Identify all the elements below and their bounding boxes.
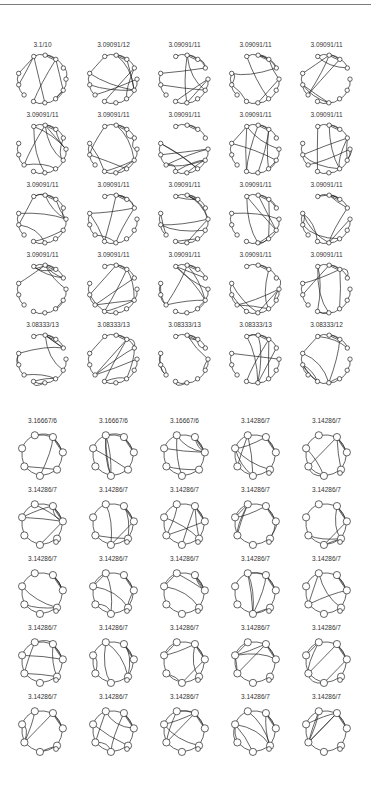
- graph-node: [266, 97, 270, 101]
- graph-node: [301, 293, 305, 297]
- graph-node: [125, 678, 130, 683]
- graph-node: [64, 357, 68, 361]
- graph-edge: [127, 348, 135, 379]
- graph-node: [266, 167, 270, 171]
- graph-node: [173, 309, 177, 313]
- graph-node: [316, 264, 320, 268]
- graph-panel: 3.14286/7: [220, 624, 291, 694]
- graph-node: [274, 368, 278, 372]
- graph-node: [195, 97, 199, 101]
- graph-panel: 3.14286/7: [149, 693, 220, 763]
- graph-panel: 3.09091/11: [220, 251, 291, 321]
- graph-node: [43, 333, 47, 337]
- graph-node: [178, 610, 185, 617]
- graph-node: [173, 501, 180, 508]
- graph-node: [234, 463, 241, 470]
- graph-node: [43, 53, 47, 57]
- graph-drawing: [78, 259, 149, 321]
- graph-edge: [19, 196, 34, 224]
- graph-panel: 3.09091/11: [149, 181, 220, 251]
- graph-node: [43, 311, 47, 315]
- graph-drawing: [220, 563, 291, 625]
- graph-node: [185, 241, 189, 245]
- graph-node: [173, 99, 177, 103]
- graph-node: [89, 721, 96, 728]
- graph-label: 3.09091/11: [78, 181, 149, 189]
- graph-node: [267, 337, 271, 341]
- graph-edge: [104, 642, 111, 683]
- graph-node: [302, 583, 309, 590]
- graph-node: [249, 610, 256, 617]
- graph-node: [114, 263, 118, 267]
- graph-node: [178, 679, 185, 686]
- graph-node: [316, 124, 320, 128]
- graph-node: [16, 71, 20, 75]
- graph-node: [348, 287, 352, 291]
- graph-node: [173, 639, 180, 646]
- graph-panel: 3.14286/7: [7, 624, 78, 694]
- graph-node: [159, 363, 163, 367]
- graph-node: [32, 124, 36, 128]
- graph-node: [120, 640, 127, 647]
- graph-node: [124, 167, 128, 171]
- graph-node: [306, 233, 310, 237]
- graph-node: [54, 678, 59, 683]
- graph-node: [343, 518, 350, 525]
- graph-panel: 3.09091/11: [149, 111, 220, 181]
- graph-node: [262, 709, 269, 716]
- graph-node: [88, 223, 92, 227]
- graph-label: 3.14286/7: [78, 624, 149, 632]
- graph-node: [61, 206, 65, 210]
- graph-node: [249, 541, 256, 548]
- graph-node: [333, 433, 340, 440]
- graph-node: [54, 337, 58, 341]
- graph-node: [158, 281, 162, 285]
- graph-node: [61, 136, 65, 140]
- graph-label: 3.14286/7: [149, 624, 220, 632]
- graph-node: [159, 293, 163, 297]
- graph-node: [338, 267, 342, 271]
- graph-node: [132, 368, 136, 372]
- graph-node: [203, 346, 207, 350]
- graph-node: [256, 53, 260, 57]
- graph-node: [256, 311, 260, 315]
- graph-node: [315, 379, 319, 383]
- graph-label: 3.14286/7: [220, 486, 291, 494]
- graph-node: [49, 502, 56, 509]
- top-rule: [0, 4, 371, 5]
- graph-edge: [318, 56, 348, 68]
- graph-node: [59, 518, 66, 525]
- graph-edge: [90, 56, 105, 73]
- graph-node: [338, 678, 343, 683]
- graph-label: 3.09091/11: [7, 111, 78, 119]
- graph-node: [88, 293, 92, 297]
- graph-node: [160, 652, 167, 659]
- graph-node: [53, 237, 57, 241]
- graph-node: [316, 54, 320, 58]
- graph-panel: 3.14286/7: [78, 486, 149, 556]
- graph-node: [43, 263, 47, 267]
- graph-node: [203, 206, 207, 210]
- graph-node: [61, 276, 65, 280]
- graph-node: [203, 66, 207, 70]
- graph-node: [274, 88, 278, 92]
- graph-node: [244, 169, 248, 173]
- graph-node: [267, 57, 271, 61]
- graph-node: [245, 54, 249, 58]
- graph-label: 3.14286/7: [291, 555, 362, 563]
- graph-edge: [34, 56, 45, 102]
- graph-edge: [40, 437, 53, 476]
- graph-drawing: [220, 494, 291, 556]
- graph-panel: 3.16667/6: [149, 417, 220, 487]
- graph-node: [17, 83, 21, 87]
- graph-node: [277, 147, 281, 151]
- graph-node: [43, 241, 47, 245]
- graph-label: 3.08333/13: [7, 321, 78, 329]
- graph-node: [125, 747, 130, 752]
- graph-node: [49, 709, 56, 716]
- graph-node: [59, 725, 66, 732]
- graph-node: [158, 141, 162, 145]
- graph-node: [230, 153, 234, 157]
- graph-node: [173, 570, 180, 577]
- graph-node: [185, 123, 189, 127]
